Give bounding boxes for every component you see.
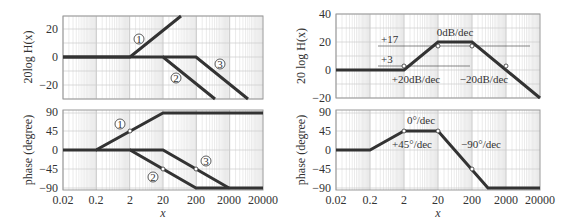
y-tick: 0	[52, 143, 58, 157]
y-tick: 90	[46, 105, 58, 119]
y-tick: 90	[319, 105, 331, 119]
y-axis-label: 20log H(x)	[21, 31, 35, 84]
y-axis-label: phase (degree)	[21, 115, 35, 185]
y-tick: −45	[39, 162, 58, 176]
y-axis-label: phase (degree)	[294, 115, 308, 185]
x-tick: 0.2	[89, 193, 104, 207]
y-tick: 40	[319, 7, 331, 21]
x-tick: 20000	[525, 193, 555, 207]
circle-label-3: 3	[217, 58, 223, 70]
x-tick: 200	[187, 193, 205, 207]
x-tick: 2	[401, 193, 407, 207]
x-tick: 0.02	[53, 193, 74, 207]
annotation-plus3: +3	[381, 53, 393, 65]
y-tick: 45	[46, 124, 58, 138]
circle-label-1: 1	[117, 118, 123, 130]
circle-label-2: 2	[173, 72, 179, 84]
y-tick: 20	[46, 22, 58, 36]
y-tick: −20	[39, 78, 58, 92]
x-tick: 2000	[494, 193, 518, 207]
x-tick: 20000	[248, 193, 278, 207]
x-tick: 20	[157, 193, 169, 207]
y-tick: 45	[319, 124, 331, 138]
annotation-0db-dec: 0dB/dec	[437, 26, 474, 38]
y-tick: 0	[325, 63, 331, 77]
x-axis-label: x	[434, 206, 441, 220]
annotation-plus17: +17	[381, 33, 399, 45]
x-tick: 0.2	[363, 193, 378, 207]
x-tick: 20	[432, 193, 444, 207]
annotation-0deg-dec: 0°/dec	[407, 114, 435, 126]
x-tick: 2	[127, 193, 133, 207]
circle-label-1: 1	[136, 33, 142, 45]
y-tick: −45	[312, 162, 331, 176]
circle-label-2: 2	[150, 171, 156, 183]
y-tick: 20	[319, 35, 331, 49]
annotation-plus45deg-dec: +45°/dec	[392, 138, 432, 150]
y-tick: 0	[52, 50, 58, 64]
x-tick: 200	[463, 193, 481, 207]
bode-plots: 1 2 3 20 0 −20 20log H(x) 1 2 3 90 45 0 …	[0, 0, 576, 224]
x-tick: 0.02	[326, 193, 347, 207]
circle-label-3: 3	[203, 155, 209, 167]
y-tick: 0	[325, 143, 331, 157]
x-axis-label: x	[159, 206, 166, 220]
annotation-minus90deg-dec: −90°/dec	[461, 138, 501, 150]
y-axis-label: 20 log H(x)	[294, 28, 308, 84]
annotation-plus20db-dec: +20dB/dec	[392, 73, 440, 85]
y-tick: −20	[312, 91, 331, 105]
x-tick: 2000	[217, 193, 241, 207]
annotation-minus20db-dec: −20dB/dec	[460, 73, 508, 85]
